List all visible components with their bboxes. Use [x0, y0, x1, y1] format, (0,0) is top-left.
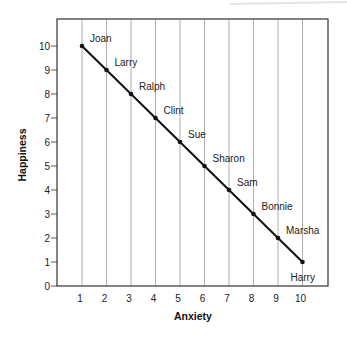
point-label: Harry [291, 272, 315, 283]
point-label: Clint [164, 105, 184, 116]
y-tick-label: 7 [44, 113, 50, 124]
y-tick-label: 2 [44, 233, 50, 244]
point-label: Joan [90, 33, 112, 44]
y-axis-ticks: 012345678910 [39, 41, 57, 292]
point-label: Ralph [139, 81, 165, 92]
data-point-harry [300, 260, 305, 265]
y-axis-title: Happiness [16, 128, 28, 181]
x-tick-label: 7 [224, 293, 230, 304]
scatter-line-chart: 012345678910 12345678910 JoanLarryRalphC… [0, 0, 347, 338]
point-label: Sharon [213, 153, 245, 164]
point-label: Sue [188, 129, 206, 140]
data-line [82, 46, 303, 262]
x-tick-label: 2 [102, 293, 108, 304]
x-tick-label: 3 [126, 293, 132, 304]
point-label: Larry [115, 57, 138, 68]
data-point-larry [104, 68, 109, 73]
x-tick-label: 8 [249, 293, 255, 304]
y-tick-label: 9 [44, 65, 50, 76]
data-point-bonnie [251, 212, 256, 217]
data-point-joan [80, 44, 85, 49]
data-point-marsha [276, 236, 281, 241]
data-point-sharon [202, 164, 207, 169]
y-tick-label: 6 [44, 137, 50, 148]
x-tick-label: 5 [175, 293, 181, 304]
scan-artifact [230, 2, 347, 4]
y-tick-label: 1 [44, 257, 50, 268]
x-tick-label: 4 [151, 293, 157, 304]
data-points: JoanLarryRalphClintSueSharonSamBonnieMar… [80, 33, 320, 283]
x-tick-label: 1 [77, 293, 83, 304]
data-point-ralph [129, 92, 134, 97]
x-tick-label: 6 [200, 293, 206, 304]
y-tick-label: 10 [39, 41, 51, 52]
y-tick-label: 5 [44, 161, 50, 172]
point-label: Bonnie [262, 201, 294, 212]
data-point-sue [178, 140, 183, 145]
point-label: Marsha [286, 225, 320, 236]
point-label: Sam [237, 177, 258, 188]
y-tick-label: 4 [44, 185, 50, 196]
x-axis-ticks: 12345678910 [77, 293, 306, 304]
data-point-clint [153, 116, 158, 121]
data-point-sam [227, 188, 232, 193]
y-tick-label: 3 [44, 209, 50, 220]
x-axis-title: Anxiety [174, 310, 212, 322]
x-tick-label: 10 [295, 293, 307, 304]
y-tick-label: 0 [44, 281, 50, 292]
x-tick-label: 9 [273, 293, 279, 304]
y-tick-label: 8 [44, 89, 50, 100]
